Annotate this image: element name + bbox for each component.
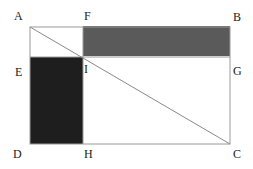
label-e: E — [15, 65, 22, 79]
label-f: F — [84, 9, 91, 23]
label-i: I — [84, 62, 88, 76]
label-c: C — [233, 147, 241, 161]
geometry-diagram: A F B E I G D H C — [0, 0, 253, 169]
label-g: G — [233, 64, 242, 78]
label-a: A — [14, 9, 23, 23]
shaded-rectangle-fbgi — [83, 26, 230, 56]
label-b: B — [233, 10, 241, 24]
label-h: H — [84, 147, 93, 161]
dark-rectangle-eihd — [30, 57, 83, 144]
label-d: D — [13, 147, 22, 161]
